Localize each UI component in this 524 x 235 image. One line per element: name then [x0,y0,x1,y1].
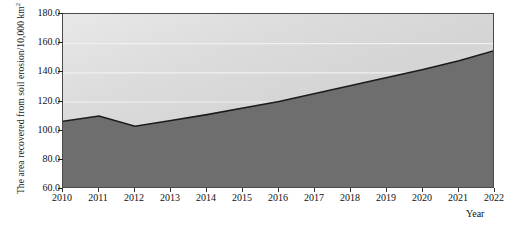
y-axis-tick-label: 100.0 [22,125,60,135]
plot-area [62,13,494,188]
y-axis-tick-mark [58,42,63,43]
y-axis-tick-mark [58,71,63,72]
x-axis-tick-mark [98,188,99,192]
x-axis-tick-labels: 2010201120122013201420152016201720182019… [0,192,524,208]
x-axis-tick-mark [494,188,495,192]
x-axis-tick-mark [62,188,63,192]
y-axis-tick-mark [58,13,63,14]
x-axis-tick-mark [278,188,279,192]
x-axis-tick-mark [314,188,315,192]
y-axis-tick-mark [58,101,63,102]
y-axis-tick-mark [58,159,63,160]
chart-container: The area recovered from soil erosion/10,… [0,0,524,235]
x-axis-tick-mark [170,188,171,192]
area-series-fill [63,50,494,188]
y-axis-tick-label: 120.0 [22,96,60,106]
x-axis-title: Year [466,208,484,219]
y-axis-tick-label: 80.0 [22,154,60,164]
x-axis-tick-mark [242,188,243,192]
area-chart-svg [63,14,494,188]
y-axis-tick-label: 140.0 [22,66,60,76]
x-axis-tick-label: 2022 [472,192,516,203]
y-axis-tick-mark [58,130,63,131]
x-axis-tick-mark [458,188,459,192]
x-axis-tick-mark [206,188,207,192]
x-axis-tick-mark [422,188,423,192]
x-axis-tick-mark [350,188,351,192]
y-axis-tick-label: 160.0 [22,37,60,47]
y-axis-tick-label: 180.0 [22,8,60,18]
x-axis-tick-mark [386,188,387,192]
x-axis-tick-mark [134,188,135,192]
